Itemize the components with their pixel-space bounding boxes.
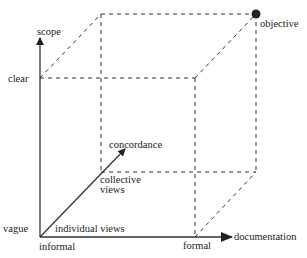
depth-top-right-edge	[195, 14, 256, 78]
collective-views-label-line2: views	[100, 184, 125, 195]
formal-label: formal	[183, 240, 211, 251]
objective-label: objective	[260, 18, 299, 29]
clear-label: clear	[8, 73, 29, 84]
concordance-axis-label: concordance	[109, 139, 162, 150]
documentation-axis-label: documentation	[234, 231, 297, 242]
vague-label: vague	[3, 223, 28, 234]
three-dimensional-cube-diagram: scope clear vague informal formal docume…	[0, 0, 307, 258]
informal-label: informal	[39, 241, 75, 252]
depth-top-left-edge	[40, 14, 101, 78]
depth-bottom-right-edge	[195, 172, 256, 237]
individual-views-label: individual views	[55, 223, 125, 234]
scope-axis-label: scope	[37, 26, 61, 37]
